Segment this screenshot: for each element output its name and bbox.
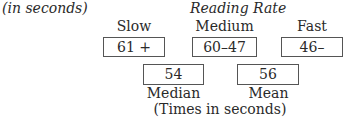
median-value-box: 54 [143,64,204,85]
category-label-medium: Medium [192,18,257,34]
median-label: Median [133,85,214,101]
category-label-slow: Slow [103,18,165,34]
times-caption: (Times in seconds) [150,101,290,117]
range-box-fast: 46– [281,37,343,57]
range-box-medium: 60–47 [192,37,257,57]
category-label-fast: Fast [281,18,343,34]
units-caption: (in seconds) [2,0,88,16]
mean-label: Mean [228,85,309,101]
diagram-title: Reading Rate [190,0,286,16]
mean-value-box: 56 [237,64,299,85]
range-box-slow: 61 + [103,37,165,57]
